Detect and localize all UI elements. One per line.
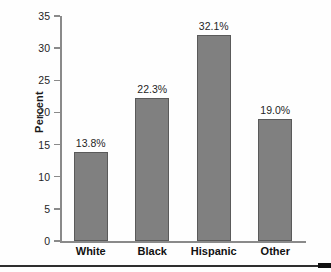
y-tick-label: 20 [18,107,50,117]
bar-value-label: 13.8% [65,138,117,149]
bottom-divider-rule [0,265,331,267]
y-tick-label: 0 [18,236,50,246]
plot-area: 13.8%22.3%32.1%19.0% [60,16,306,241]
x-axis-line [60,241,306,243]
bar-chart-figure: Percent 05101520253035 13.8%22.3%32.1%19… [0,0,331,272]
y-tick-label: 15 [18,140,50,150]
y-tick-label: 35 [18,11,50,21]
y-tick-label: 5 [18,204,50,214]
bar-black[interactable] [135,98,169,241]
bar-hispanic[interactable] [197,35,231,241]
y-tick-label: 30 [18,43,50,53]
bar-other[interactable] [258,119,292,241]
y-tick-label: 25 [18,75,50,85]
bar-value-label: 22.3% [126,84,178,95]
y-tick-label: 10 [18,172,50,182]
bar-value-label: 32.1% [188,21,240,32]
bottom-rule-accent [318,263,331,268]
bar-white[interactable] [74,152,108,241]
category-label-other: Other [235,245,315,257]
bar-value-label: 19.0% [249,105,301,116]
